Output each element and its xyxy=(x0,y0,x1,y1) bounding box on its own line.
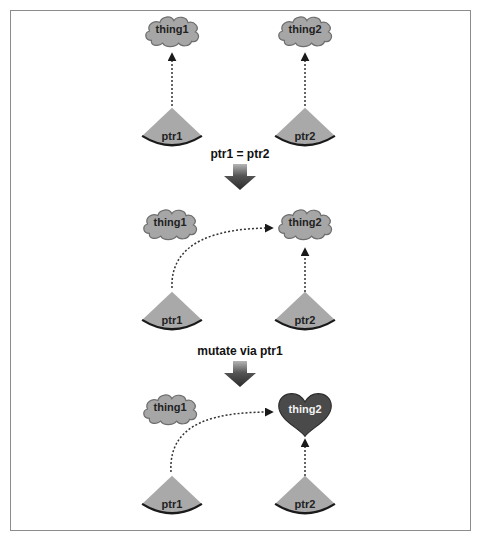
thing1-label: thing1 xyxy=(156,23,189,35)
ptr2-sector: ptr2 xyxy=(275,476,335,513)
pointer-aliasing-diagram: thing1 thing2 ptr1 ptr2 ptr1 = ptr2 thin… xyxy=(0,0,482,543)
thing2-cloud: thing2 xyxy=(279,17,332,47)
thing1-cloud: thing1 xyxy=(144,395,197,425)
stage-2: thing1 thing2 ptr1 ptr2 xyxy=(142,210,335,329)
stage-1: thing1 thing2 ptr1 ptr2 xyxy=(142,17,335,145)
thing1-cloud: thing1 xyxy=(146,17,199,47)
thing2-heart: thing2 xyxy=(279,394,332,437)
thing1-label: thing1 xyxy=(154,216,187,228)
thing1-cloud: thing1 xyxy=(144,210,197,240)
ptr2-label: ptr2 xyxy=(295,314,316,326)
ptr2-sector: ptr2 xyxy=(275,292,335,329)
transition-2: mutate via ptr1 xyxy=(197,344,283,387)
ptr2-label: ptr2 xyxy=(295,498,316,510)
ptr1-sector: ptr1 xyxy=(142,108,202,145)
transition-label-mutate: mutate via ptr1 xyxy=(197,344,283,358)
ptr1-sector: ptr1 xyxy=(142,292,202,329)
transition-label-assign: ptr1 = ptr2 xyxy=(210,147,269,161)
ptr2-sector: ptr2 xyxy=(275,108,335,145)
ptr2-label: ptr2 xyxy=(295,130,316,142)
ptr1-sector: ptr1 xyxy=(142,476,202,513)
thing2-label: thing2 xyxy=(289,403,322,415)
transition-1: ptr1 = ptr2 xyxy=(210,147,269,190)
stage-3: thing1 thing2 ptr1 ptr2 xyxy=(142,394,335,514)
thing2-label: thing2 xyxy=(289,23,322,35)
thing2-cloud: thing2 xyxy=(279,210,332,240)
down-arrow-icon xyxy=(224,164,256,190)
ptr1-label: ptr1 xyxy=(162,314,183,326)
down-arrow-icon xyxy=(224,361,256,387)
ptr1-label: ptr1 xyxy=(162,130,183,142)
thing2-label: thing2 xyxy=(289,216,322,228)
ptr1-label: ptr1 xyxy=(162,498,183,510)
thing1-label: thing1 xyxy=(154,401,187,413)
